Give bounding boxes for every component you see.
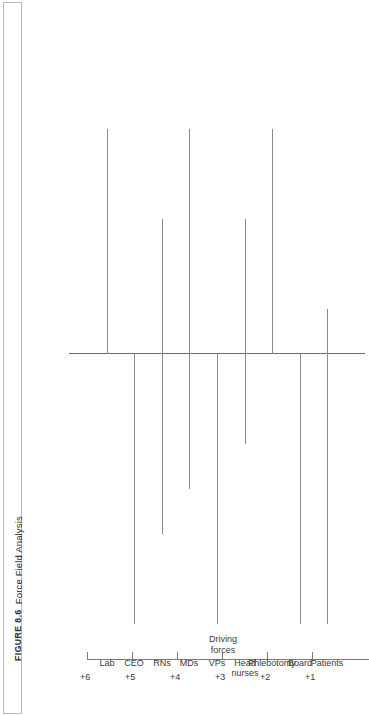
force-bar-row: [327, 26, 328, 642]
force-bar-row: [189, 26, 190, 642]
force-bar: [272, 129, 273, 354]
figure-page: FIGURE 8.6 Force Field Analysis +6+5+4+3…: [0, 0, 369, 716]
force-bar-row: [272, 26, 273, 642]
axis-tick-label: +4: [170, 672, 180, 682]
chart-canvas: +6+5+4+3+2+1−1−2−3−4−5−6DrivingforcesRes…: [69, 26, 365, 686]
force-bar: [327, 309, 328, 624]
force-bar-row: [299, 26, 300, 642]
force-bar-row: [217, 26, 218, 642]
force-bar: [217, 354, 218, 624]
force-bar-row: [244, 26, 245, 642]
axis-tick-label: +5: [125, 672, 135, 682]
force-bar: [299, 354, 300, 624]
force-bar: [106, 129, 107, 354]
force-bar-row: [106, 26, 107, 642]
force-field-chart: +6+5+4+3+2+1−1−2−3−4−5−6DrivingforcesRes…: [0, 0, 369, 716]
force-bar: [244, 219, 245, 444]
axis-tick-label: +6: [80, 672, 90, 682]
category-label: Patients: [301, 658, 353, 668]
force-bar: [161, 219, 162, 534]
force-bar: [134, 354, 135, 624]
force-bar: [189, 129, 190, 489]
force-bar-row: [161, 26, 162, 642]
axis-tick-label: +1: [305, 672, 315, 682]
force-bar-row: [134, 26, 135, 642]
plot-area: LabCEORNsMDsVPsHeadnursesPhlebotomyBoard…: [69, 26, 365, 642]
